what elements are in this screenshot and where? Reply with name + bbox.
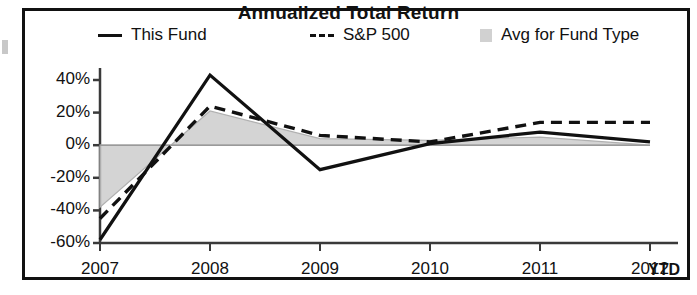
x-axis-ytd-note: YTD [648, 261, 680, 279]
area-swatch-icon [480, 29, 492, 42]
legend-item-sp500: S&P 500 [310, 25, 410, 45]
x-axis-tick-label: 2010 [411, 259, 449, 279]
x-axis-tick-label: 2009 [301, 259, 339, 279]
chart-screenshot: Annualized Total Return This Fund S&P 50… [0, 0, 697, 295]
y-axis-tick-label: -20% [28, 167, 90, 187]
x-axis-tick-label: 2011 [522, 259, 559, 279]
y-axis-tick-label: 40% [28, 69, 90, 89]
x-axis-tick-label: 2007 [81, 259, 119, 279]
legend-item-this-fund: This Fund [98, 25, 207, 45]
y-axis-tick-label: -60% [28, 232, 90, 252]
chart-legend: This Fund S&P 500 Avg for Fund Type [0, 25, 697, 49]
y-axis-tick-label: 0% [28, 134, 90, 154]
solid-line-icon [98, 34, 122, 37]
y-axis-tick-label: 20% [28, 102, 90, 122]
legend-label-sp500: S&P 500 [343, 25, 410, 45]
legend-label-avg-fund-type: Avg for Fund Type [501, 25, 639, 45]
legend-item-avg-fund-type: Avg for Fund Type [480, 25, 639, 45]
chart-title: Annualized Total Return [0, 2, 697, 24]
dashed-line-icon [310, 34, 334, 37]
legend-label-this-fund: This Fund [131, 25, 207, 45]
x-axis-tick-label: 2008 [191, 259, 229, 279]
y-axis-tick-label: -40% [28, 199, 90, 219]
